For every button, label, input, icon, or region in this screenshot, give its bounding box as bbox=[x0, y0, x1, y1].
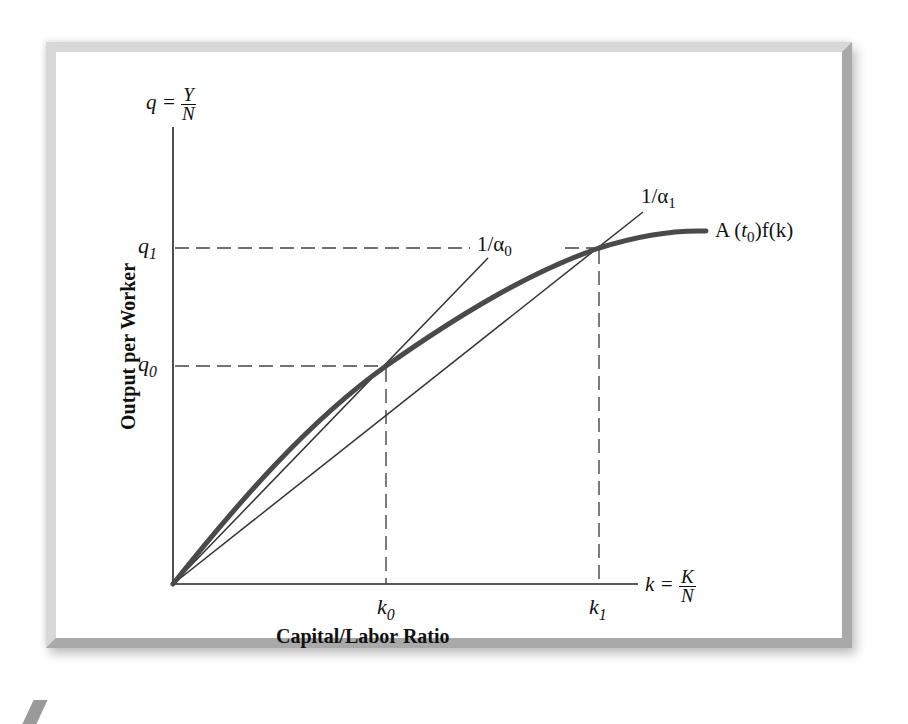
y-axis-symbol: q = YN bbox=[146, 86, 196, 123]
x-axis-title: Capital/Labor Ratio bbox=[276, 625, 450, 648]
ray-alpha1 bbox=[173, 212, 643, 584]
y-axis-title: Output per Worker bbox=[117, 263, 140, 430]
label-alpha0: 1/α0 bbox=[477, 232, 512, 260]
ray-alpha0 bbox=[173, 258, 488, 584]
tick-k0: k0 bbox=[377, 594, 395, 624]
tick-q0: q0 bbox=[138, 351, 157, 381]
x-axis-symbol: k = KN bbox=[645, 568, 696, 605]
label-production-function: A (t0)f(k) bbox=[715, 218, 793, 246]
tick-k1: k1 bbox=[589, 594, 607, 624]
production-curve bbox=[173, 231, 706, 584]
label-alpha1: 1/α1 bbox=[641, 184, 676, 212]
tick-q1: q1 bbox=[138, 233, 157, 263]
